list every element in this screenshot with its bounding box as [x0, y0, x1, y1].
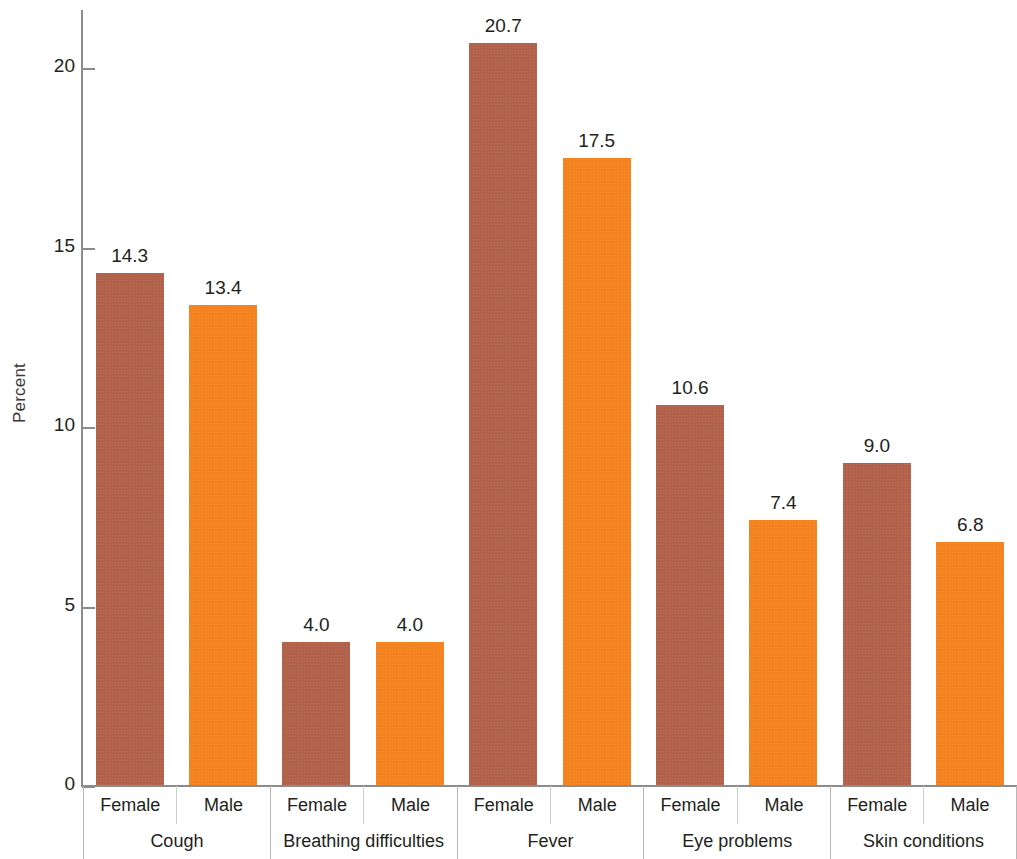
- bar: [96, 273, 164, 786]
- y-axis-tick-label: 10: [54, 414, 75, 436]
- x-axis-group-label: Eye problems: [644, 824, 830, 859]
- bar-chart: Percent 05101520 14.313.44.04.020.717.51…: [0, 0, 1017, 859]
- bar-slot: 20.7: [457, 0, 550, 786]
- x-axis-subgroup-label: Male: [737, 786, 830, 824]
- x-axis-group: FemaleMaleBreathing difficulties: [270, 786, 457, 859]
- bar: [936, 542, 1004, 786]
- y-axis-tick-label: 20: [54, 55, 75, 77]
- y-axis-tick: 5: [0, 607, 95, 608]
- x-axis-subgroup-label: Male: [550, 786, 643, 824]
- bar-slot: 4.0: [270, 0, 363, 786]
- bar: [376, 642, 444, 786]
- bar-value-label: 17.5: [578, 130, 615, 152]
- bar: [749, 520, 817, 786]
- bar-slot: 9.0: [830, 0, 923, 786]
- bar-slot: 17.5: [550, 0, 643, 786]
- bar-value-label: 4.0: [303, 614, 329, 636]
- y-axis-tick: 10: [0, 427, 95, 428]
- y-axis-title: Percent: [0, 0, 40, 786]
- y-axis-tick-label: 15: [54, 235, 75, 257]
- bar: [656, 405, 724, 786]
- bar-value-label: 7.4: [770, 492, 796, 514]
- x-axis-group: FemaleMaleSkin conditions: [830, 786, 1017, 859]
- bar-value-label: 10.6: [672, 377, 709, 399]
- y-axis-tick: 15: [0, 248, 95, 249]
- bar-value-label: 4.0: [397, 614, 423, 636]
- x-axis-subgroup-label: Male: [363, 786, 456, 824]
- x-axis-group: FemaleMaleFever: [457, 786, 644, 859]
- x-axis-subgroup-label: Male: [923, 786, 1016, 824]
- x-axis-subgroup-row: FemaleMale: [831, 786, 1016, 824]
- x-axis-labels: FemaleMaleCoughFemaleMaleBreathing diffi…: [83, 786, 1017, 859]
- x-axis-group-label: Fever: [458, 824, 644, 859]
- x-axis-subgroup-row: FemaleMale: [644, 786, 830, 824]
- bar: [843, 463, 911, 786]
- bar-value-label: 6.8: [957, 514, 983, 536]
- bar: [469, 43, 537, 786]
- bar-slot: 7.4: [737, 0, 830, 786]
- bar-slot: 4.0: [363, 0, 456, 786]
- bar-value-label: 9.0: [864, 435, 890, 457]
- bar-slot: 13.4: [176, 0, 269, 786]
- bar: [282, 642, 350, 786]
- bar-value-label: 20.7: [485, 15, 522, 37]
- plot-area: 14.313.44.04.020.717.510.67.49.06.8: [83, 0, 1017, 786]
- x-axis-subgroup-row: FemaleMale: [458, 786, 644, 824]
- bar-slot: 6.8: [924, 0, 1017, 786]
- x-axis-subgroup-row: FemaleMale: [271, 786, 457, 824]
- bar: [563, 158, 631, 786]
- x-axis-subgroup-label: Female: [271, 786, 363, 824]
- bar-slot: 10.6: [643, 0, 736, 786]
- x-axis-subgroup-label: Male: [176, 786, 269, 824]
- x-axis-subgroup-label: Female: [644, 786, 736, 824]
- x-axis-subgroup-label: Female: [458, 786, 550, 824]
- x-axis-group-label: Breathing difficulties: [271, 824, 457, 859]
- x-axis-group-label: Skin conditions: [831, 824, 1016, 859]
- x-axis-group-label: Cough: [84, 824, 270, 859]
- y-axis-tick-label: 0: [64, 773, 75, 795]
- x-axis-subgroup-row: FemaleMale: [84, 786, 270, 824]
- x-axis-group: FemaleMaleCough: [83, 786, 270, 859]
- bar-value-label: 13.4: [205, 277, 242, 299]
- x-axis-subgroup-label: Female: [84, 786, 176, 824]
- y-axis-tick: 20: [0, 68, 95, 69]
- y-axis-tick-label: 5: [64, 594, 75, 616]
- bar-slot: 14.3: [83, 0, 176, 786]
- bar: [189, 305, 257, 786]
- bar-value-label: 14.3: [111, 245, 148, 267]
- x-axis-group: FemaleMaleEye problems: [643, 786, 830, 859]
- y-axis-title-label: Percent: [10, 363, 30, 423]
- x-axis-subgroup-label: Female: [831, 786, 923, 824]
